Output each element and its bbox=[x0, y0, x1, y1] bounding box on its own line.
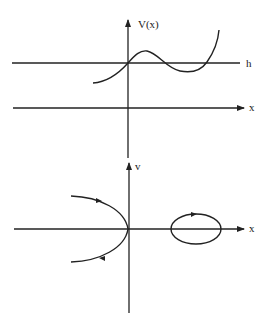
phase-plot: v x bbox=[14, 160, 255, 313]
v-axis-label: V(x) bbox=[138, 18, 159, 31]
potential-plot: V(x) h x bbox=[12, 18, 255, 158]
potential-curve bbox=[93, 30, 219, 83]
h-label: h bbox=[246, 57, 252, 69]
phase-x-axis-label: x bbox=[249, 222, 255, 234]
x-axis-label: x bbox=[249, 101, 255, 113]
velocity-axis-label: v bbox=[135, 160, 141, 172]
potential-phase-diagram: V(x) h x v x bbox=[0, 0, 265, 327]
